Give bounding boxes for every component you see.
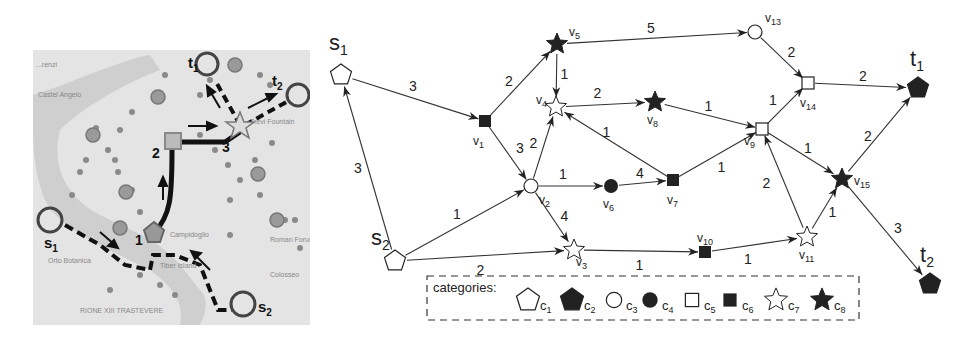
- node-label: v2: [539, 193, 550, 209]
- node-v1: v1: [473, 115, 491, 150]
- edge-v6-v7: [619, 181, 666, 186]
- node-label: v1: [473, 134, 484, 150]
- edge-weight: 2: [477, 262, 485, 278]
- legend-item-c7: c7: [765, 288, 800, 315]
- edge-v15-t2: [848, 187, 922, 275]
- pentagon-filled-icon: [561, 288, 584, 310]
- node-c4-icon: [604, 179, 618, 193]
- node-v13: v13: [748, 11, 781, 39]
- edge-s2-v2: [406, 190, 524, 255]
- node-label: v11: [799, 248, 814, 264]
- node-c2-icon: [908, 77, 929, 97]
- edge-weight: 1: [559, 166, 567, 182]
- node-v5: v5: [547, 25, 581, 53]
- node-c8-icon: [547, 33, 568, 53]
- node-c6-icon: [479, 115, 491, 127]
- node-label: v13: [765, 11, 781, 27]
- node-v8: v8: [645, 91, 666, 129]
- edges-layer: 33122315214241111121112223: [344, 20, 922, 278]
- edge-weight: 1: [705, 98, 713, 114]
- edge-weight: 1: [636, 257, 644, 273]
- node-c5-icon: [802, 77, 814, 89]
- legend-item-c3: c3: [606, 292, 637, 315]
- edge-v11-v9: [765, 135, 803, 227]
- edge-weight: 3: [516, 140, 524, 156]
- node-c6-icon: [699, 246, 711, 258]
- node-c2-icon: [920, 273, 941, 293]
- node-label: v9: [744, 134, 755, 150]
- node-v11: v11: [797, 226, 818, 264]
- edge-weight: 2: [864, 128, 872, 144]
- legend-item-c4: c4: [642, 292, 673, 315]
- legend: categories: c1c2c3c4c5c6c7c8: [427, 276, 859, 320]
- pentagon-outline-icon: [517, 288, 540, 310]
- node-v15: v15: [832, 168, 871, 190]
- node-label: v15: [854, 174, 870, 190]
- edge-v15-t1: [848, 97, 910, 171]
- node-c5-icon: [756, 123, 768, 135]
- edge-weight: 2: [505, 73, 513, 89]
- legend-items: c1c2c3c4c5c6c7c8: [517, 288, 846, 315]
- legend-label: c7: [788, 298, 800, 315]
- edge-weight: 4: [636, 165, 644, 181]
- node-t1: t1: [908, 46, 929, 97]
- node-v9: v9: [744, 123, 768, 150]
- node-v6: v6: [603, 179, 618, 213]
- node-label: v5: [569, 25, 580, 41]
- square-outline-icon: [685, 293, 698, 306]
- edge-s2-s1: [344, 87, 391, 250]
- legend-label: c8: [834, 298, 846, 315]
- edge-weight: 1: [829, 204, 837, 220]
- edge-v4-v8: [566, 103, 645, 107]
- edge-weight: 4: [561, 208, 569, 224]
- legend-label: c6: [742, 298, 754, 315]
- edge-weight: 2: [594, 85, 602, 101]
- legend-label: c3: [626, 298, 638, 315]
- node-c3-icon: [748, 25, 762, 39]
- edge-weight: 1: [769, 92, 777, 108]
- edge-weight: 1: [804, 140, 812, 156]
- edge-v10-v11: [712, 238, 797, 251]
- node-label: t1: [910, 46, 924, 74]
- edge-weight: 2: [859, 68, 867, 84]
- category-graph: 33122315214241111121112223 s1s2v1v2v3v4v…: [0, 0, 977, 345]
- edge-v13-v14: [761, 38, 803, 79]
- node-label: t2: [920, 242, 934, 270]
- edge-weight: 1: [603, 124, 611, 140]
- legend-label: c2: [584, 298, 596, 315]
- edge-weight: 2: [763, 175, 771, 191]
- edge-weight: 3: [354, 160, 362, 176]
- node-label: v6: [603, 197, 614, 213]
- node-c3-icon: [524, 179, 538, 193]
- node-label: s2: [371, 225, 390, 253]
- circle-filled-icon: [642, 292, 657, 307]
- node-label: s1: [329, 30, 348, 58]
- square-filled-icon: [723, 293, 736, 306]
- node-label: v10: [697, 231, 713, 247]
- legend-item-c5: c5: [685, 293, 715, 315]
- star-outline-icon: [765, 288, 788, 310]
- node-label: v14: [800, 96, 816, 112]
- node-label: v7: [667, 193, 678, 209]
- star-filled-icon: [811, 288, 834, 310]
- legend-label: c5: [704, 298, 716, 315]
- node-c8-icon: [645, 91, 666, 111]
- node-v3: v3: [564, 239, 588, 271]
- node-s1: s1: [329, 30, 352, 84]
- legend-item-c8: c8: [811, 288, 846, 315]
- legend-item-c6: c6: [723, 293, 753, 315]
- legend-label: c1: [540, 298, 552, 315]
- edge-v14-t1: [815, 83, 906, 87]
- edge-s2-v3: [407, 251, 564, 261]
- node-label: v3: [576, 255, 587, 271]
- edge-v5-v13: [567, 32, 747, 43]
- edge-weight: 3: [894, 220, 902, 236]
- legend-item-c2: c2: [561, 288, 596, 315]
- legend-label: c4: [662, 298, 674, 315]
- node-v4: v4: [536, 93, 567, 116]
- edge-weight: 1: [453, 206, 461, 222]
- node-c1-icon: [331, 64, 352, 84]
- legend-item-c1: c1: [517, 288, 552, 315]
- edge-v3-v10: [584, 250, 698, 252]
- node-v14: v14: [800, 77, 816, 112]
